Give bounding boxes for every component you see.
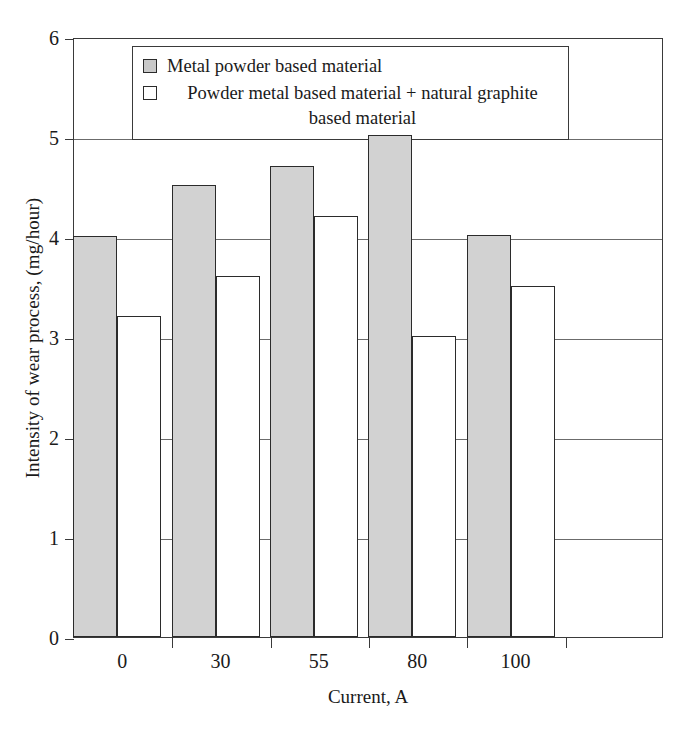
x-axis-tick <box>369 637 370 648</box>
bar-series1-100 <box>467 235 511 637</box>
bar-series1-30 <box>172 185 216 637</box>
bar-series1-0 <box>73 236 117 637</box>
legend-item: Powder metal based material + natural gr… <box>143 81 558 131</box>
x-axis-tick-label: 30 <box>176 650 266 673</box>
x-axis-tick <box>172 637 173 648</box>
legend-item-label: Metal powder based material <box>167 54 558 79</box>
bar-series2-100 <box>511 286 555 637</box>
x-axis-tick-label: 0 <box>77 650 167 673</box>
y-axis-tick-label: 3 <box>19 327 59 350</box>
y-axis-tick-label: 1 <box>19 527 59 550</box>
x-axis-tick <box>271 637 272 648</box>
x-axis-title: Current, A <box>73 686 663 708</box>
x-axis-tick <box>566 637 567 648</box>
y-axis-tick <box>65 639 74 640</box>
bar-series1-55 <box>270 166 314 637</box>
legend-item-label: Powder metal based material + natural gr… <box>167 81 558 131</box>
y-axis-tick-label: 5 <box>19 127 59 150</box>
chart-legend: Metal powder based materialPowder metal … <box>132 46 569 140</box>
legend-swatch-icon <box>143 86 157 100</box>
bar-series2-80 <box>412 336 456 637</box>
y-axis-tick <box>65 39 74 40</box>
y-axis-tick <box>65 139 74 140</box>
y-axis-tick-label: 2 <box>19 427 59 450</box>
legend-swatch-icon <box>143 59 157 73</box>
x-axis-tick-label: 55 <box>274 650 364 673</box>
bar-series2-0 <box>117 316 161 637</box>
x-axis-tick-label: 100 <box>471 650 561 673</box>
x-axis-tick-label: 80 <box>372 650 462 673</box>
bar-series2-55 <box>314 216 358 637</box>
bar-chart-figure: Intensity of wear process, (mg/hour) Cur… <box>0 0 694 731</box>
y-axis-tick-label: 6 <box>19 27 59 50</box>
bar-series1-80 <box>368 135 412 637</box>
legend-item: Metal powder based material <box>143 54 558 79</box>
y-axis-tick-label: 4 <box>19 227 59 250</box>
y-axis-tick-label: 0 <box>19 627 59 650</box>
bar-series2-30 <box>216 276 260 637</box>
x-axis-tick <box>467 637 468 648</box>
